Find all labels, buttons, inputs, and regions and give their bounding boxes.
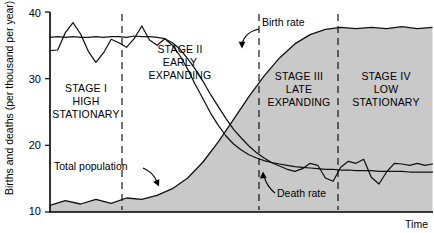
stage-3-line-3: EXPANDING (268, 96, 331, 108)
stage-3-line-2: LATE (286, 83, 312, 95)
birth-rate-label: Birth rate (262, 16, 305, 28)
stage-1-line-2: HIGH (72, 95, 99, 107)
stage-4-line-2: LOW (374, 83, 399, 95)
stage-2-line-3: EXPANDING (149, 69, 212, 81)
ytick-label-20: 20 (29, 139, 41, 151)
stage-2-line-1: STAGE II (157, 43, 202, 55)
stage-4-line-3: STATIONARY (352, 96, 419, 108)
ytick-label-30: 30 (29, 73, 41, 85)
stage-1-line-3: STATIONARY (52, 108, 119, 120)
ytick-label-10: 10 (29, 205, 41, 217)
total-population-label: Total population (54, 160, 128, 172)
x-axis-title: Time (405, 218, 428, 230)
stage-2-line-2: EARLY (163, 56, 198, 68)
stage-1-line-1: STAGE I (65, 82, 107, 94)
death-rate-label: Death rate (277, 187, 326, 199)
stage-3-line-1: STAGE III (275, 70, 323, 82)
stage-4-line-1: STAGE IV (361, 70, 410, 82)
demographic-transition-chart: 10 20 30 40 Births and deaths (per thous… (0, 0, 434, 233)
y-axis-title: Births and deaths (per thousand per year… (3, 1, 15, 195)
ytick-label-40: 40 (29, 7, 41, 19)
chart-figure: 10 20 30 40 Births and deaths (per thous… (0, 0, 434, 233)
